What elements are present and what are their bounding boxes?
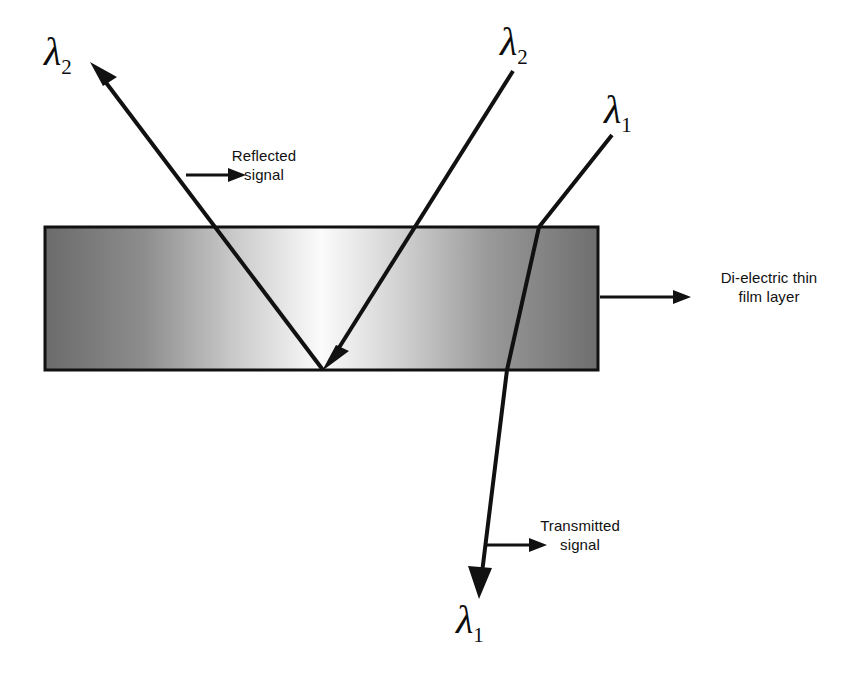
dielectric-layer-label: Di-electric thin film layer (694, 268, 844, 306)
lambda-glyph: λ (44, 29, 61, 74)
lambda2-reflected-arrowhead (90, 62, 117, 86)
lambda-subscript: 1 (473, 623, 484, 647)
lambda1-transmitted-arrowhead (468, 566, 492, 599)
dielectric-film-slab (45, 227, 598, 370)
lambda-subscript: 1 (621, 113, 632, 137)
lambda2-incident-label: λ2 (500, 22, 528, 65)
lambda-glyph: λ (456, 597, 473, 642)
lambda-glyph: λ (500, 19, 517, 64)
figure-canvas: λ2 λ2 λ1 λ1 Reflected signal Di-electric… (0, 0, 852, 679)
lambda1-incident-label: λ1 (604, 90, 632, 133)
reflected-signal-label: Reflected signal (204, 146, 324, 184)
transmitted-signal-label: Transmitted signal (518, 516, 642, 554)
lambda-glyph: λ (604, 87, 621, 132)
lambda-subscript: 2 (61, 55, 72, 79)
lambda2-reflected-label: λ2 (44, 32, 72, 75)
lambda-subscript: 2 (517, 45, 528, 69)
lambda1-transmitted-label: λ1 (456, 600, 484, 643)
ray-diagram (0, 0, 852, 679)
dielectric-pointer-arrowhead (673, 290, 691, 304)
